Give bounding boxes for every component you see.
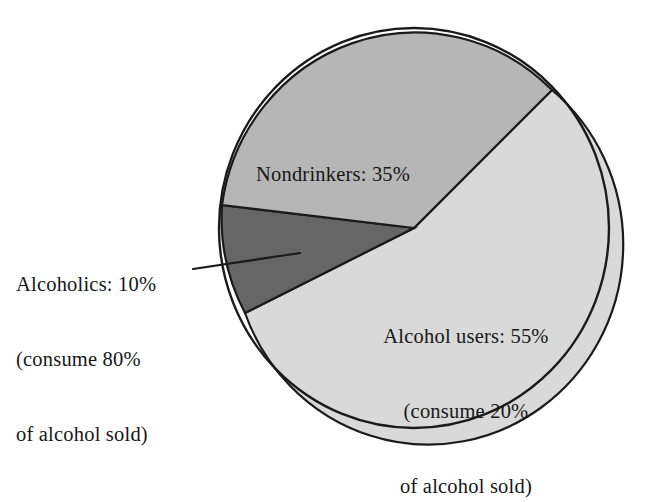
slice-label-alcohol-users-line2: (consume 20% xyxy=(366,399,566,424)
slice-label-alcoholics-line1: Alcoholics: 10% xyxy=(16,272,156,297)
slice-label-alcohol-users-line3: of alcohol sold) xyxy=(366,474,566,499)
slice-label-alcoholics-line3: of alcohol sold) xyxy=(16,422,156,447)
slice-label-alcoholics: Alcoholics: 10% (consume 80% of alcohol … xyxy=(16,222,156,497)
slice-label-alcoholics-line2: (consume 80% xyxy=(16,347,156,372)
slice-label-nondrinkers-line1: Nondrinkers: 35% xyxy=(256,162,410,187)
slice-label-alcohol-users: Alcohol users: 55% (consume 20% of alcoh… xyxy=(366,274,566,502)
slice-label-alcohol-users-line1: Alcohol users: 55% xyxy=(366,324,566,349)
slice-label-nondrinkers: Nondrinkers: 35% xyxy=(256,112,410,237)
